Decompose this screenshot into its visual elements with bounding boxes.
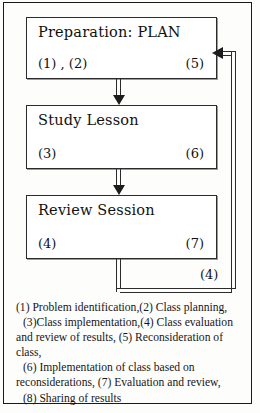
process-box-study-lesson-right-tag: (6)	[186, 146, 204, 161]
process-box-review-session-left-tag: (4)	[38, 236, 56, 251]
arrow-shaft-right	[120, 79, 121, 96]
process-box-preparation-left-tag: (1) , (2)	[38, 56, 87, 71]
legend-line: and review of results, (5) Reconsiderati…	[16, 330, 244, 345]
process-box-study-lesson: Study Lesson (3) (6)	[26, 105, 217, 169]
loop-segment-bottom-inner	[120, 292, 231, 293]
legend-line: (3)Class implementation,(4) Class evalua…	[16, 315, 244, 330]
flowchart-figure: Preparation: PLAN (1) , (2) (5) Study Le…	[0, 0, 260, 413]
loop-segment-top-outer	[222, 51, 236, 52]
legend-line: (1) Problem identification,(2) Class pla…	[16, 300, 244, 315]
process-box-review-session: Review Session (4) (7)	[26, 195, 217, 259]
process-box-preparation: Preparation: PLAN (1) , (2) (5)	[26, 17, 217, 79]
process-box-review-session-title: Review Session	[38, 202, 155, 218]
legend-line: reconsiderations, (7) Evaluation and rev…	[16, 375, 244, 390]
legend-line: class,	[16, 345, 244, 360]
arrow-head-down-icon	[113, 95, 125, 105]
process-box-preparation-right-tag: (5)	[186, 56, 204, 71]
legend-line: (8) Sharing of results	[16, 391, 244, 406]
feedback-loop-tag: (4)	[200, 267, 218, 282]
arrow-head-left-icon	[212, 47, 223, 59]
arrow-shaft-left	[116, 79, 117, 96]
arrow-head-down-icon	[113, 185, 125, 195]
arrow-shaft-left	[116, 169, 117, 186]
legend: (1) Problem identification,(2) Class pla…	[16, 300, 244, 406]
arrow-shaft-right	[120, 169, 121, 186]
loop-segment-bottom-outer	[116, 288, 235, 289]
process-box-study-lesson-title: Study Lesson	[38, 112, 139, 128]
process-box-study-lesson-left-tag: (3)	[38, 146, 56, 161]
figure-outer-border: Preparation: PLAN (1) , (2) (5) Study Le…	[3, 2, 252, 404]
loop-segment-right-inner	[231, 51, 232, 293]
loop-segment-top-inner	[222, 55, 232, 56]
process-box-review-session-right-tag: (7)	[186, 236, 204, 251]
legend-line: (6) Implementation of class based on	[16, 360, 244, 375]
process-box-preparation-title: Preparation: PLAN	[38, 24, 181, 40]
loop-segment-down-right	[120, 259, 121, 288]
loop-segment-right-outer	[235, 51, 236, 289]
